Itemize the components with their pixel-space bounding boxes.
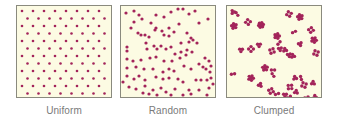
- clumped-pattern-box: [226, 5, 322, 98]
- uniform-dots: [17, 6, 111, 97]
- panel-random: Random: [120, 5, 216, 98]
- random-dots: [121, 6, 215, 97]
- clumped-label: Clumped: [226, 105, 322, 116]
- random-label: Random: [120, 105, 216, 116]
- uniform-label: Uniform: [16, 105, 112, 116]
- panel-uniform: Uniform: [16, 5, 112, 98]
- panel-clumped: Clumped: [226, 5, 322, 98]
- random-pattern-box: [120, 5, 216, 98]
- clumped-dots: [227, 6, 321, 97]
- uniform-pattern-box: [16, 5, 112, 98]
